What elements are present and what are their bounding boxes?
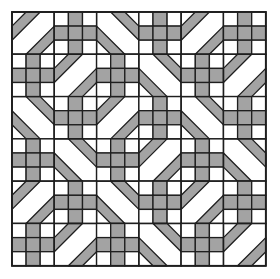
- white-square: [125, 224, 139, 238]
- gray-square: [153, 26, 167, 40]
- white-square: [40, 167, 54, 181]
- white-square: [224, 125, 238, 139]
- white-square: [139, 97, 153, 111]
- gray-square: [195, 252, 209, 266]
- white-square: [83, 125, 97, 139]
- diagonal-block: [97, 12, 139, 54]
- white-square: [125, 252, 139, 266]
- white-square: [54, 209, 68, 223]
- white-square: [54, 97, 68, 111]
- gray-square: [26, 224, 40, 238]
- gray-square: [209, 68, 223, 82]
- diagonal-block: [181, 12, 223, 54]
- diagonal-block: [224, 54, 266, 96]
- white-square: [12, 252, 26, 266]
- gray-square: [153, 111, 167, 125]
- gray-square: [26, 83, 40, 97]
- gray-square: [26, 153, 40, 167]
- gray-square: [181, 68, 195, 82]
- white-square: [12, 83, 26, 97]
- nine-patch-block: [224, 181, 266, 223]
- gray-square: [68, 195, 82, 209]
- nine-patch-block: [54, 97, 96, 139]
- gray-square: [153, 181, 167, 195]
- nine-patch-block: [54, 181, 96, 223]
- white-square: [181, 224, 195, 238]
- nine-patch-block: [139, 181, 181, 223]
- white-square: [97, 252, 111, 266]
- gray-square: [40, 153, 54, 167]
- gray-square: [111, 83, 125, 97]
- diagonal-block: [224, 224, 266, 266]
- gray-square: [111, 167, 125, 181]
- white-square: [252, 125, 266, 139]
- diagonal-block: [12, 97, 54, 139]
- gray-square: [238, 111, 252, 125]
- nine-patch-block: [181, 224, 223, 266]
- white-square: [12, 167, 26, 181]
- gray-square: [238, 97, 252, 111]
- gray-square: [238, 209, 252, 223]
- gray-square: [97, 68, 111, 82]
- gray-square: [167, 111, 181, 125]
- white-square: [252, 209, 266, 223]
- gray-square: [252, 195, 266, 209]
- gray-square: [153, 195, 167, 209]
- white-square: [252, 12, 266, 26]
- white-square: [224, 209, 238, 223]
- gray-square: [139, 26, 153, 40]
- nine-patch-block: [139, 97, 181, 139]
- diagonal-block: [181, 97, 223, 139]
- gray-square: [111, 238, 125, 252]
- white-square: [181, 252, 195, 266]
- gray-square: [195, 68, 209, 82]
- white-square: [209, 139, 223, 153]
- gray-square: [83, 195, 97, 209]
- gray-square: [238, 12, 252, 26]
- gray-square: [139, 195, 153, 209]
- diagonal-block: [139, 139, 181, 181]
- white-square: [83, 209, 97, 223]
- gray-square: [181, 153, 195, 167]
- gray-square: [40, 238, 54, 252]
- white-square: [224, 40, 238, 54]
- gray-square: [26, 68, 40, 82]
- white-square: [97, 167, 111, 181]
- white-square: [139, 12, 153, 26]
- gray-square: [238, 181, 252, 195]
- gray-square: [83, 111, 97, 125]
- gray-square: [54, 111, 68, 125]
- gray-square: [26, 167, 40, 181]
- white-square: [97, 54, 111, 68]
- white-square: [12, 139, 26, 153]
- gray-square: [12, 68, 26, 82]
- gray-square: [111, 153, 125, 167]
- white-square: [12, 54, 26, 68]
- white-square: [139, 40, 153, 54]
- nine-patch-block: [224, 12, 266, 54]
- gray-square: [238, 40, 252, 54]
- gray-square: [238, 195, 252, 209]
- white-square: [224, 97, 238, 111]
- white-square: [40, 252, 54, 266]
- diagonal-block: [54, 54, 96, 96]
- gray-square: [167, 26, 181, 40]
- white-square: [54, 40, 68, 54]
- white-square: [40, 139, 54, 153]
- white-square: [125, 139, 139, 153]
- gray-square: [125, 68, 139, 82]
- gray-square: [153, 209, 167, 223]
- gray-square: [181, 238, 195, 252]
- white-square: [40, 83, 54, 97]
- gray-square: [195, 54, 209, 68]
- nine-patch-block: [181, 139, 223, 181]
- gray-square: [209, 153, 223, 167]
- white-square: [167, 181, 181, 195]
- white-square: [181, 139, 195, 153]
- diagonal-block: [139, 54, 181, 96]
- gray-square: [68, 97, 82, 111]
- white-square: [139, 209, 153, 223]
- white-square: [167, 97, 181, 111]
- diagonal-block: [224, 139, 266, 181]
- white-square: [139, 181, 153, 195]
